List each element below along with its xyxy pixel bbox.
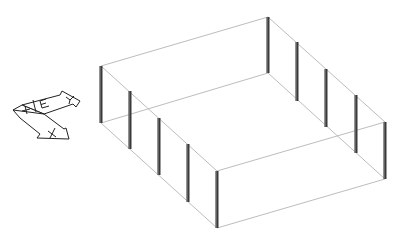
bottom-rail-front-right	[217, 179, 385, 228]
post-right-1	[296, 42, 299, 101]
top-rail-back-left	[101, 17, 268, 66]
bottom-rail-back-left	[101, 73, 268, 123]
posts	[100, 17, 387, 228]
post-left-4	[187, 144, 190, 202]
ucs-icon	[13, 91, 80, 139]
post-left-3	[158, 118, 161, 175]
post-left-1	[100, 66, 103, 123]
post-right-corner	[384, 122, 387, 179]
post-left-2	[129, 91, 132, 149]
post-right-3	[355, 95, 358, 153]
drawing-canvas	[0, 0, 398, 238]
post-back-corner	[267, 17, 270, 73]
post-front-corner	[216, 171, 219, 228]
top-rail-front-right	[217, 122, 385, 171]
post-right-2	[325, 69, 328, 127]
rails	[101, 17, 385, 228]
